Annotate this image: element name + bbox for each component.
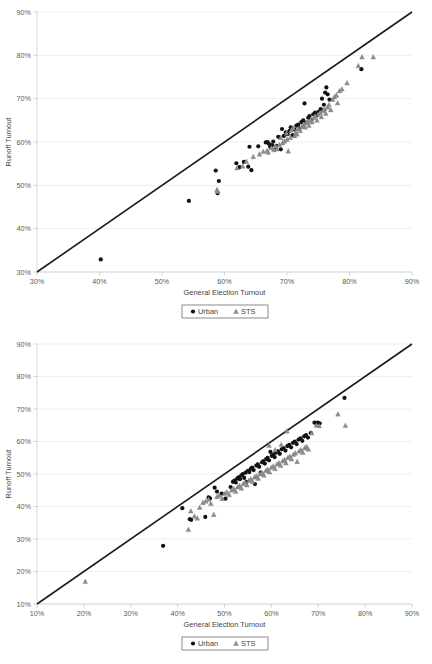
x-tick-label: 60% xyxy=(217,277,232,286)
x-tick-label: 60% xyxy=(264,609,279,618)
data-point-sts xyxy=(295,459,300,464)
y-axis-title: Runoff Turnout xyxy=(4,118,13,167)
y-tick-label: 10% xyxy=(17,600,32,609)
data-point-urban xyxy=(251,468,255,472)
legend-marker-urban-icon xyxy=(191,309,195,313)
x-axis-title: General Election Turnout xyxy=(184,620,266,629)
data-point-sts xyxy=(326,102,331,107)
data-point-sts xyxy=(345,80,350,85)
data-point-urban xyxy=(283,449,287,453)
x-tick-label: 80% xyxy=(342,277,357,286)
x-tick-label: 70% xyxy=(311,609,326,618)
scatter-chart-top: 30%40%50%60%70%80%90%30%40%50%60%70%80%9… xyxy=(0,0,432,332)
data-point-urban xyxy=(242,476,246,480)
x-tick-labels-group: 30%40%50%60%70%80%90% xyxy=(30,277,420,286)
data-point-urban xyxy=(257,465,261,469)
data-point-urban xyxy=(180,506,184,510)
x-tick-label: 50% xyxy=(155,277,170,286)
x-tick-label: 90% xyxy=(405,277,420,286)
data-point-urban xyxy=(326,92,330,96)
x-tick-label: 40% xyxy=(170,609,185,618)
data-point-urban xyxy=(238,477,242,481)
y-tick-label: 90% xyxy=(17,8,32,17)
data-point-urban xyxy=(271,139,275,143)
data-point-sts xyxy=(188,508,193,513)
data-point-urban xyxy=(322,103,326,107)
x-tick-labels-group: 10%20%30%40%50%60%70%80%90% xyxy=(30,609,420,618)
chart-canvas-top: 30%40%50%60%70%80%90%30%40%50%60%70%80%9… xyxy=(0,0,432,332)
data-point-sts xyxy=(209,501,214,506)
x-tick-label: 10% xyxy=(30,609,45,618)
legend-label-sts: STS xyxy=(241,307,255,316)
legend-label-urban: Urban xyxy=(198,307,218,316)
x-tick-label: 40% xyxy=(92,277,107,286)
data-point-urban xyxy=(280,127,284,131)
y-tick-label: 80% xyxy=(17,51,32,60)
y-tick-label: 70% xyxy=(17,405,32,414)
legend-label-sts: STS xyxy=(241,639,255,648)
y-tick-labels-group: 10%20%30%40%50%60%70%80%90% xyxy=(17,340,32,609)
data-point-urban xyxy=(256,144,260,148)
data-point-urban xyxy=(306,436,310,440)
data-point-urban xyxy=(215,489,219,493)
data-point-urban xyxy=(289,445,293,449)
data-point-urban xyxy=(300,439,304,443)
data-point-urban xyxy=(99,257,103,261)
data-point-sts xyxy=(257,152,262,157)
y-tick-label: 60% xyxy=(17,437,32,446)
y-tick-label: 90% xyxy=(17,340,32,349)
data-point-urban xyxy=(320,97,324,101)
y-tick-label: 40% xyxy=(17,224,32,233)
data-point-urban xyxy=(234,480,238,484)
data-point-urban xyxy=(342,396,346,400)
data-point-urban xyxy=(295,442,299,446)
x-tick-marks-group xyxy=(37,272,412,276)
scatter-chart-bottom: 10%20%30%40%50%60%70%80%90%10%20%30%40%5… xyxy=(0,332,432,664)
y-tick-label: 30% xyxy=(17,268,32,277)
x-axis-title: General Election Turnout xyxy=(184,288,266,297)
y-tick-label: 20% xyxy=(17,567,32,576)
data-point-sts xyxy=(286,149,291,154)
data-point-urban xyxy=(203,515,207,519)
x-tick-label: 90% xyxy=(405,609,420,618)
data-point-urban xyxy=(213,486,217,490)
series-urban xyxy=(99,67,364,261)
data-point-sts xyxy=(343,423,348,428)
data-point-urban xyxy=(273,455,277,459)
data-point-sts xyxy=(261,149,266,154)
legend-label-urban: Urban xyxy=(198,639,218,648)
data-point-sts xyxy=(251,154,256,159)
data-point-urban xyxy=(263,462,267,466)
y-tick-labels-group: 30%40%50%60%70%80%90% xyxy=(17,8,32,277)
data-point-sts xyxy=(197,505,202,510)
data-point-sts xyxy=(211,512,216,517)
data-point-urban xyxy=(278,452,282,456)
y-tick-label: 50% xyxy=(17,470,32,479)
data-point-urban xyxy=(267,458,271,462)
data-point-urban xyxy=(249,168,253,172)
data-point-urban xyxy=(246,165,250,169)
chart-legend: UrbanSTS xyxy=(182,305,268,318)
data-point-urban xyxy=(187,199,191,203)
data-point-sts xyxy=(83,579,88,584)
data-point-urban xyxy=(234,161,238,165)
data-point-sts xyxy=(186,527,191,532)
x-tick-label: 50% xyxy=(217,609,232,618)
y-tick-label: 30% xyxy=(17,535,32,544)
chart-legend: UrbanSTS xyxy=(182,637,268,650)
y-tick-label: 50% xyxy=(17,181,32,190)
x-tick-label: 20% xyxy=(77,609,92,618)
series-urban xyxy=(161,396,347,548)
data-point-sts xyxy=(356,63,361,68)
data-point-sts xyxy=(279,442,284,447)
chart-canvas-bottom: 10%20%30%40%50%60%70%80%90%10%20%30%40%5… xyxy=(0,332,432,664)
x-tick-label: 80% xyxy=(358,609,373,618)
data-point-urban xyxy=(217,179,221,183)
x-tick-label: 70% xyxy=(280,277,295,286)
data-point-urban xyxy=(247,145,251,149)
legend-marker-urban-icon xyxy=(191,641,195,645)
data-point-urban xyxy=(214,169,218,173)
y-tick-label: 80% xyxy=(17,372,32,381)
data-point-urban xyxy=(302,101,306,105)
y-tick-label: 70% xyxy=(17,94,32,103)
